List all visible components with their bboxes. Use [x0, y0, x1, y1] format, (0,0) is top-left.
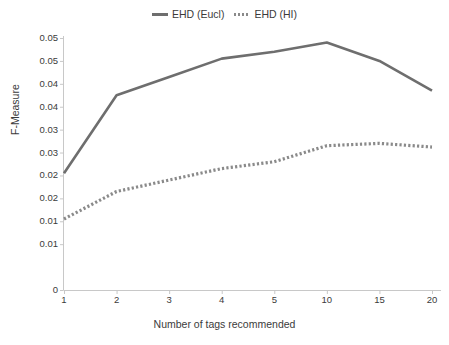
data-series-group — [64, 43, 432, 219]
y-axis-tick-label: 0.01 — [24, 216, 58, 226]
y-axis-ticks — [60, 39, 64, 291]
y-axis-tick-label: 0.01 — [24, 239, 58, 249]
f-measure-line-chart: EHD (Eucl) EHD (HI) 0.050.050.040.040.03… — [0, 0, 449, 345]
series-line-2 — [64, 143, 432, 219]
y-axis-tick-label: 0.02 — [24, 193, 58, 203]
x-axis-tick-label: 3 — [154, 294, 184, 305]
y-axis-tick-label: 0.02 — [24, 170, 58, 180]
y-axis-title: F-Measure — [9, 113, 21, 135]
y-axis-tick-label: 0.03 — [24, 148, 58, 158]
y-axis-tick-label: 0.04 — [24, 79, 58, 89]
x-axis-tick-label: 1 — [49, 294, 79, 305]
x-axis-title: Number of tags recommended — [0, 318, 449, 330]
x-axis-tick-label: 20 — [417, 294, 447, 305]
x-axis-tick-label: 4 — [207, 294, 237, 305]
x-axis-tick-label: 2 — [102, 294, 132, 305]
y-axis-tick-label: 0.03 — [24, 125, 58, 135]
x-axis-tick-label: 15 — [364, 294, 394, 305]
x-axis-tick-label: 10 — [312, 294, 342, 305]
x-axis-tick-label: 5 — [259, 294, 289, 305]
axes — [60, 36, 441, 294]
y-axis-tick-label: 0.04 — [24, 102, 58, 112]
series-line-1 — [64, 43, 432, 174]
y-axis-tick-label: 0.05 — [24, 33, 58, 43]
y-axis-tick-label: 0.05 — [24, 56, 58, 66]
